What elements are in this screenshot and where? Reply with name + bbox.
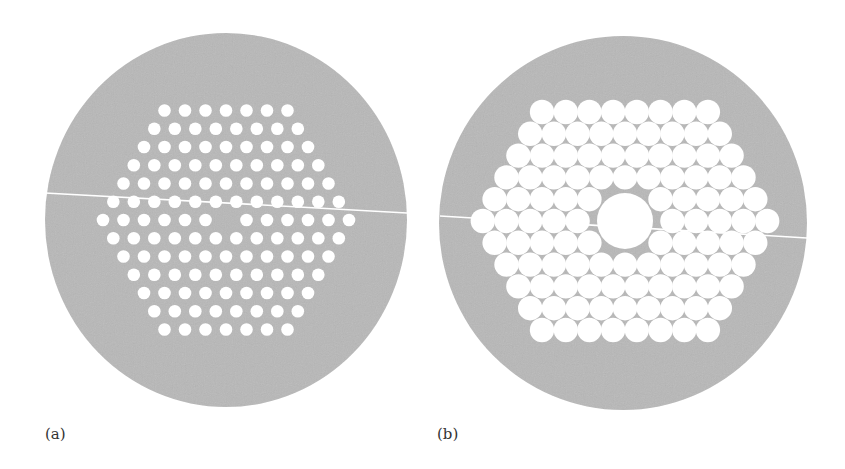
- air-hole: [271, 269, 284, 282]
- air-hole: [731, 252, 755, 276]
- air-hole: [696, 318, 720, 342]
- air-hole: [302, 214, 315, 227]
- air-hole: [684, 296, 708, 320]
- panel-label-b: (b): [437, 425, 458, 443]
- air-hole: [565, 209, 589, 233]
- air-hole: [554, 318, 578, 342]
- air-hole: [158, 104, 171, 117]
- air-hole: [637, 165, 661, 189]
- air-hole: [128, 269, 141, 282]
- air-hole: [625, 318, 649, 342]
- air-hole: [518, 122, 542, 146]
- air-hole: [179, 250, 192, 263]
- air-hole: [158, 214, 171, 227]
- air-hole: [302, 287, 315, 300]
- air-hole: [230, 123, 243, 136]
- air-hole: [601, 143, 625, 167]
- air-hole: [292, 123, 305, 136]
- air-hole: [240, 214, 253, 227]
- air-hole: [148, 123, 161, 136]
- air-hole: [148, 159, 161, 172]
- air-hole: [506, 143, 530, 167]
- air-hole: [672, 231, 696, 255]
- air-hole: [506, 231, 530, 255]
- air-hole: [240, 141, 253, 154]
- air-hole: [210, 305, 223, 318]
- air-hole: [482, 187, 506, 211]
- air-hole: [565, 296, 589, 320]
- air-hole: [471, 209, 495, 233]
- air-hole: [261, 214, 274, 227]
- air-hole: [230, 305, 243, 318]
- air-hole: [271, 159, 284, 172]
- air-hole: [577, 274, 601, 298]
- air-hole: [518, 165, 542, 189]
- air-hole: [708, 165, 732, 189]
- air-hole: [613, 122, 637, 146]
- air-hole: [684, 165, 708, 189]
- air-hole: [601, 100, 625, 124]
- air-hole: [672, 274, 696, 298]
- air-hole: [660, 296, 684, 320]
- air-hole: [333, 232, 346, 245]
- air-hole: [672, 318, 696, 342]
- air-hole: [708, 209, 732, 233]
- air-hole: [322, 177, 335, 190]
- air-hole: [672, 143, 696, 167]
- air-hole: [199, 141, 212, 154]
- air-hole: [240, 104, 253, 117]
- air-hole: [240, 177, 253, 190]
- air-hole: [755, 209, 779, 233]
- air-hole: [230, 159, 243, 172]
- air-hole: [189, 159, 202, 172]
- air-hole: [169, 305, 182, 318]
- air-hole: [189, 305, 202, 318]
- air-hole: [97, 214, 110, 227]
- air-hole: [117, 214, 130, 227]
- air-hole: [660, 165, 684, 189]
- air-hole: [240, 323, 253, 336]
- air-hole: [281, 104, 294, 117]
- air-hole: [530, 187, 554, 211]
- air-hole: [708, 252, 732, 276]
- air-hole: [542, 296, 566, 320]
- air-hole: [696, 274, 720, 298]
- air-hole: [271, 123, 284, 136]
- air-hole: [565, 165, 589, 189]
- air-hole: [169, 269, 182, 282]
- air-hole: [672, 187, 696, 211]
- air-hole: [660, 252, 684, 276]
- air-hole: [189, 269, 202, 282]
- air-hole: [302, 250, 315, 263]
- air-hole: [565, 122, 589, 146]
- air-hole: [230, 232, 243, 245]
- air-hole: [613, 252, 637, 276]
- air-hole: [179, 214, 192, 227]
- air-hole: [158, 177, 171, 190]
- air-hole: [312, 159, 325, 172]
- air-hole: [708, 296, 732, 320]
- air-hole: [189, 123, 202, 136]
- air-hole: [179, 177, 192, 190]
- air-hole: [530, 318, 554, 342]
- air-hole: [743, 187, 767, 211]
- air-hole: [589, 122, 613, 146]
- air-hole: [589, 165, 613, 189]
- air-hole: [292, 269, 305, 282]
- air-hole: [158, 250, 171, 263]
- air-hole: [696, 143, 720, 167]
- air-hole: [210, 159, 223, 172]
- air-hole: [530, 143, 554, 167]
- air-hole: [199, 323, 212, 336]
- air-hole: [271, 305, 284, 318]
- air-hole: [322, 214, 335, 227]
- air-hole: [250, 196, 263, 209]
- air-hole: [107, 232, 120, 245]
- air-hole: [128, 159, 141, 172]
- air-hole: [281, 177, 294, 190]
- air-hole: [148, 269, 161, 282]
- figure-canvas: [0, 0, 845, 469]
- air-hole: [577, 143, 601, 167]
- air-hole: [138, 177, 151, 190]
- air-hole: [230, 269, 243, 282]
